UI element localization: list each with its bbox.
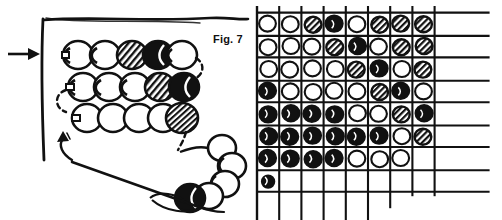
chart-cell-black	[416, 105, 433, 121]
bead-row1-2	[90, 41, 120, 69]
chart-cell-white	[282, 16, 299, 32]
chart-cell-hatched	[371, 84, 388, 100]
chart-cell-white	[349, 151, 366, 167]
chart-cell-black	[304, 128, 321, 144]
chart-cell-white	[327, 61, 344, 77]
chart-cell-white	[371, 151, 388, 167]
chart-cell-white	[304, 60, 321, 76]
chart-cell-black	[348, 129, 365, 145]
bead-row2-5	[169, 73, 199, 101]
chart-cell-hatched	[371, 17, 388, 33]
chart-cell-white	[349, 105, 366, 121]
chart-cell-white	[370, 106, 387, 122]
figure-page: Fig. 7	[0, 0, 502, 220]
chart-cell-black	[371, 60, 388, 76]
bead-row1-5	[167, 41, 197, 69]
chart-cell-white	[283, 38, 300, 54]
chart-cell-hatched	[326, 39, 343, 55]
chart-cell-black	[260, 106, 277, 122]
chart-cell-black	[281, 129, 298, 145]
chart-cell-white	[260, 39, 277, 55]
chart-cell-white	[260, 61, 277, 77]
chart-cell-hatched	[393, 39, 410, 55]
chart-cell-hatched	[416, 38, 433, 54]
chart-cell-hatched	[393, 106, 410, 122]
chart-cell-white	[304, 39, 321, 55]
chart-cell-hatched	[392, 16, 409, 32]
chart-cell-black	[349, 38, 366, 54]
chart-cell-black	[304, 106, 321, 122]
chart-cell-white	[281, 62, 298, 78]
chart-cell-hatched	[305, 17, 322, 33]
chart-cell-white	[415, 83, 432, 99]
chart-cell-hatched	[348, 62, 365, 78]
chart-cell-white	[370, 39, 387, 55]
chart-cell-black	[392, 83, 409, 99]
bead-chart-svg	[252, 0, 502, 220]
chart-cell-hatched	[415, 129, 432, 145]
bead-diagram-svg	[0, 0, 252, 220]
bead-weaving-diagram	[0, 0, 252, 220]
chart-cell-white	[392, 150, 409, 166]
chart-cell-white	[305, 84, 322, 100]
bead-row3-5	[166, 103, 198, 133]
chart-cell-black	[260, 128, 277, 144]
chart-cell-white	[259, 16, 276, 32]
chart-cell-hatched	[415, 62, 432, 78]
chart-cell-black	[326, 16, 343, 32]
chart-cell-white	[326, 83, 343, 99]
chart-cell-white	[349, 83, 366, 99]
chart-cell-black	[305, 151, 322, 167]
bead-row-3	[72, 103, 198, 150]
bead-row1-1	[62, 41, 93, 69]
chart-cell-black	[259, 83, 276, 99]
chart-cell-white	[349, 16, 366, 32]
chart-cell-black	[371, 128, 388, 144]
chart-cell-white	[394, 128, 411, 144]
entry-arrow-icon	[8, 48, 40, 60]
turn-arrow-icon	[57, 131, 72, 160]
chart-cell-black	[283, 105, 300, 121]
chart-cell-black	[259, 150, 276, 166]
chart-cell-black	[326, 150, 343, 166]
chart-cell-black	[262, 176, 274, 188]
chart-cell-white	[394, 61, 411, 77]
chart-cell-black	[282, 151, 299, 167]
chart-cell-hatched	[415, 16, 432, 32]
chart-cell-black	[327, 128, 344, 144]
chart-cell-black	[326, 106, 343, 122]
chart-cell-white	[282, 83, 299, 99]
bead-pattern-chart	[252, 0, 502, 220]
